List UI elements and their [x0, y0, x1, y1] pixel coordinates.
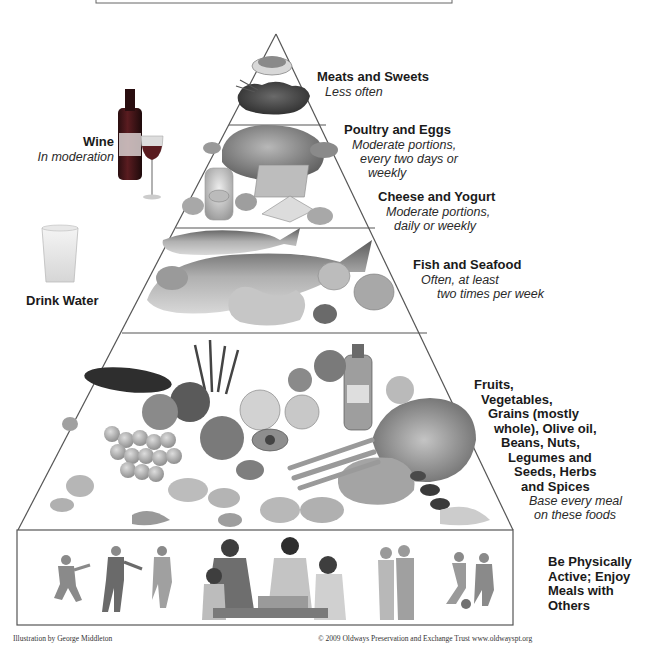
- base-text: Others: [548, 599, 632, 614]
- fish-seafood-illustration: [147, 228, 394, 326]
- tier-name: Meats and Sweets: [317, 70, 429, 85]
- tier-note: Base every meal: [474, 494, 622, 508]
- tier-name: Fruits,: [474, 378, 622, 393]
- tier-note: Moderate portions,: [344, 138, 458, 152]
- tier-name: Poultry and Eggs: [344, 123, 458, 138]
- tier-note: daily or weekly: [378, 219, 495, 233]
- tier-note: on these foods: [474, 508, 622, 522]
- tier-name: and Spices: [474, 480, 622, 495]
- tier-name: Grains (mostly: [474, 407, 622, 422]
- tier-label-cheese-yogurt: Cheese and Yogurt Moderate portions, dai…: [378, 190, 495, 233]
- tier-name: Cheese and Yogurt: [378, 190, 495, 205]
- meats-sweets-illustration: [236, 56, 310, 115]
- tier-note: every two days or: [344, 152, 458, 166]
- plant-foods-illustration: [50, 340, 490, 527]
- tier-name: Legumes and: [474, 451, 622, 466]
- wine-name: Wine: [34, 135, 114, 150]
- tier-note: Moderate portions,: [378, 205, 495, 219]
- title-box: [96, 0, 452, 3]
- wine-illustration: [118, 89, 163, 200]
- water-glass-illustration: [42, 225, 78, 282]
- wine-label: Wine In moderation: [34, 135, 114, 164]
- tier-name: Seeds, Herbs: [474, 465, 622, 480]
- base-text: Meals with: [548, 584, 632, 599]
- wine-note: In moderation: [34, 150, 114, 164]
- base-text: Active; Enjoy: [548, 570, 632, 585]
- tier-name: Vegetables,: [474, 393, 622, 408]
- tier-note: weekly: [344, 166, 458, 180]
- tier-label-fish-seafood: Fish and Seafood Often, at least two tim…: [413, 258, 544, 301]
- base-label: Be Physically Active; Enjoy Meals with O…: [548, 555, 632, 613]
- water-name: Drink Water: [26, 294, 98, 309]
- food-pyramid-diagram: Meats and Sweets Less often Poultry and …: [0, 0, 647, 653]
- tier-note: two times per week: [413, 287, 544, 301]
- copyright-credit: © 2009 Oldways Preservation and Exchange…: [318, 634, 470, 643]
- water-label: Drink Water: [26, 294, 98, 309]
- grapes: [104, 426, 182, 482]
- illustrator-credit: Illustration by George Middleton: [13, 634, 112, 643]
- tier-label-poultry-eggs: Poultry and Eggs Moderate portions, ever…: [344, 123, 458, 180]
- tier-note: Less often: [317, 85, 429, 99]
- tier-label-plant-foods: Fruits, Vegetables, Grains (mostly whole…: [474, 378, 622, 522]
- tier-name: whole), Olive oil,: [474, 422, 622, 437]
- base-text: Be Physically: [548, 555, 632, 570]
- tier-name: Fish and Seafood: [413, 258, 544, 273]
- tier-label-meats-sweets: Meats and Sweets Less often: [317, 70, 429, 99]
- tier-name: Beans, Nuts,: [474, 436, 622, 451]
- tier-note: Often, at least: [413, 273, 544, 287]
- website-link[interactable]: www.oldwayspt.org: [472, 634, 532, 643]
